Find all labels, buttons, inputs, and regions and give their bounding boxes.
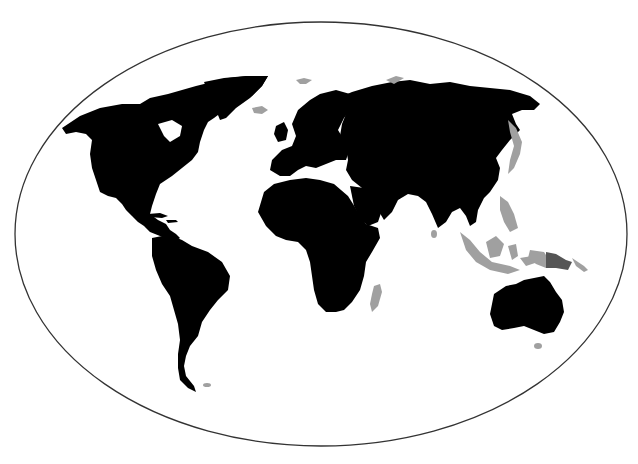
world-map xyxy=(0,0,638,464)
island-new-guinea-west xyxy=(528,250,548,268)
island-papua-new-guinea xyxy=(546,252,572,270)
islands-british-isles xyxy=(274,122,288,142)
island-madagascar xyxy=(370,284,382,312)
continent-australia xyxy=(490,276,564,334)
island-falklands xyxy=(203,383,211,387)
continent-south-america xyxy=(152,236,230,392)
island-iceland xyxy=(252,106,268,114)
islands-melanesia xyxy=(572,258,588,272)
island-tasmania xyxy=(534,343,542,349)
island-sri-lanka xyxy=(431,230,437,238)
islands-philippines xyxy=(500,196,518,232)
islands-indonesia xyxy=(460,232,538,274)
island-svalbard xyxy=(296,78,312,84)
islands-japan xyxy=(508,120,522,174)
